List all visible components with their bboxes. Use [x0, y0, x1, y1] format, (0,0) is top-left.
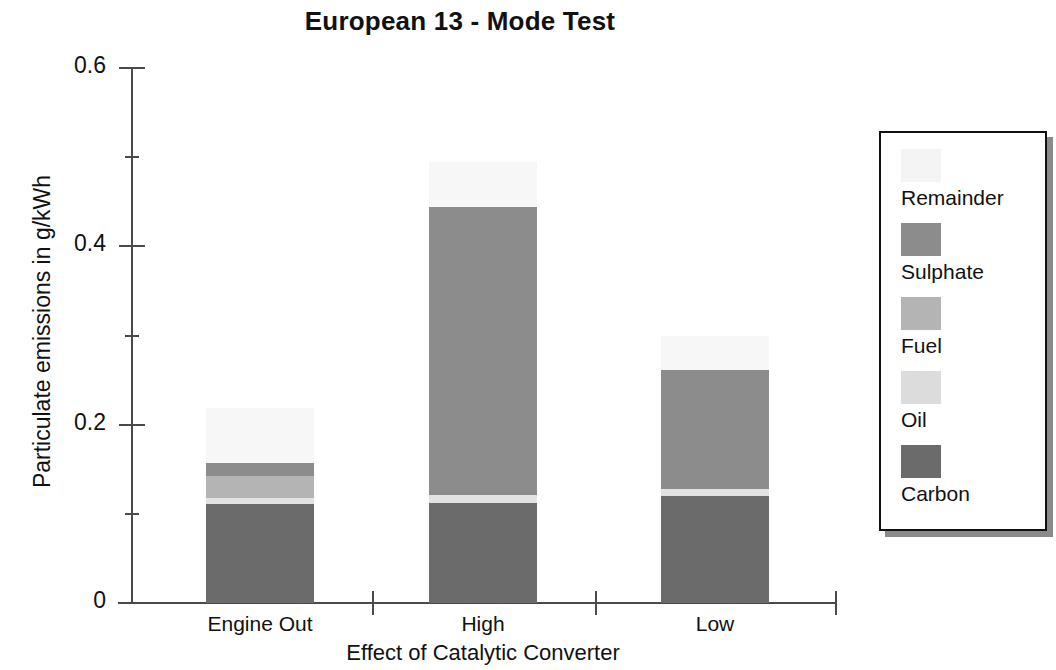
legend-swatch-carbon	[901, 445, 941, 478]
bar-segment-carbon[interactable]	[429, 503, 537, 603]
category-label-low: Low	[625, 612, 805, 636]
chart-legend: RemainderSulphateFuelOilCarbon	[879, 131, 1047, 531]
legend-swatch-sulphate	[901, 223, 941, 256]
y-tick-label-text: 0.6	[58, 54, 106, 77]
chart-title: European 13 - Mode Test	[0, 6, 920, 37]
bar-segment-sulphate[interactable]	[206, 463, 314, 476]
legend-item-oil[interactable]: Oil	[901, 371, 1041, 431]
legend-label-oil: Oil	[901, 408, 1041, 431]
bar-segment-remainder[interactable]	[661, 336, 769, 371]
bar-segment-remainder[interactable]	[206, 408, 314, 463]
legend-swatch-remainder	[901, 149, 941, 182]
y-tick-minor	[125, 335, 139, 337]
bar-segment-oil[interactable]	[429, 495, 537, 503]
legend-item-remainder[interactable]: Remainder	[901, 149, 1041, 209]
y-tick-label: 0.4	[58, 232, 106, 256]
x-tick	[595, 591, 597, 615]
y-tick-label: 0.2	[58, 411, 106, 435]
legend-swatch-fuel	[901, 297, 941, 330]
x-tick	[372, 591, 374, 615]
legend-swatch-oil	[901, 371, 941, 404]
bar-high[interactable]	[429, 162, 537, 603]
legend-item-sulphate[interactable]: Sulphate	[901, 223, 1041, 283]
bar-engine-out[interactable]	[206, 408, 314, 603]
bar-segment-carbon[interactable]	[661, 496, 769, 603]
legend-label-remainder: Remainder	[901, 186, 1041, 209]
y-tick-label: 0.6	[58, 54, 106, 78]
bar-segment-sulphate[interactable]	[429, 207, 537, 495]
bar-segment-carbon[interactable]	[206, 504, 314, 603]
y-tick-major	[119, 424, 145, 426]
chart-canvas: European 13 - Mode Test 00.20.40.6 Parti…	[0, 0, 1056, 670]
y-tick-label-text: 0	[58, 589, 106, 612]
legend-label-carbon: Carbon	[901, 482, 1041, 505]
x-tick	[835, 591, 837, 615]
y-tick-minor	[125, 156, 139, 158]
bar-low[interactable]	[661, 336, 769, 604]
y-axis-title: Particulate emissions in g/kWh	[29, 72, 56, 592]
bar-segment-oil[interactable]	[661, 489, 769, 496]
bar-segment-sulphate[interactable]	[661, 370, 769, 489]
legend-item-fuel[interactable]: Fuel	[901, 297, 1041, 357]
y-tick-major	[119, 602, 145, 604]
legend-item-carbon[interactable]: Carbon	[901, 445, 1041, 505]
legend-label-sulphate: Sulphate	[901, 260, 1041, 283]
bar-segment-remainder[interactable]	[429, 162, 537, 207]
category-label-engine-out: Engine Out	[170, 612, 350, 636]
y-tick-major	[119, 245, 145, 247]
legend-label-fuel: Fuel	[901, 334, 1041, 357]
y-tick-label-text: 0.2	[58, 411, 106, 434]
bar-segment-fuel[interactable]	[206, 476, 314, 497]
legend-shadow-right	[1047, 137, 1053, 537]
y-tick-major	[119, 67, 145, 69]
y-tick-minor	[125, 513, 139, 515]
y-tick-label: 0	[58, 589, 106, 613]
bar-segment-oil[interactable]	[206, 498, 314, 504]
category-label-high: High	[393, 612, 573, 636]
legend-shadow-bottom	[885, 531, 1053, 537]
y-tick-label-text: 0.4	[58, 232, 106, 255]
x-axis-title: Effect of Catalytic Converter	[131, 640, 835, 666]
